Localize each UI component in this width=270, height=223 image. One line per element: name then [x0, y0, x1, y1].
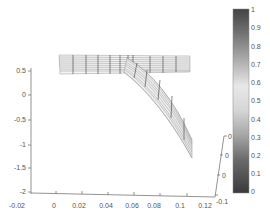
x-tick-label: 0.06 — [120, 202, 144, 209]
y-tick-label: -0.5 — [2, 116, 26, 123]
x-tick-label: 0.1 — [168, 202, 192, 209]
y-tick-label: -1.5 — [2, 164, 26, 171]
y-axis — [28, 68, 31, 194]
y-tick-label: 0.5 — [2, 67, 26, 74]
colorbar-tick-label: 0 — [251, 188, 255, 195]
colorbar-tick-label: 0.4 — [251, 116, 261, 123]
y-tick-label: 0 — [2, 91, 26, 98]
z-tick-label: 0 — [225, 152, 229, 159]
y-tick-label: -1 — [2, 141, 26, 148]
x-tick-label: 0.08 — [142, 202, 166, 209]
y-tick-label: -2 — [2, 188, 26, 195]
x-tick-label: 0.02 — [67, 202, 91, 209]
x-tick-label: 0 — [42, 202, 66, 209]
mesh-surface-bent — [124, 58, 192, 158]
colorbar-tick-label: 0.1 — [251, 170, 261, 177]
colorbar-tick-label: 0.9 — [251, 24, 261, 31]
colorbar-tick-label: 0.2 — [251, 152, 261, 159]
figure: 0.5 0 -0.5 -1 -1.5 -2 -0.02 0 0.02 0.04 … — [0, 0, 270, 223]
z-tick-label: 0 — [222, 172, 226, 179]
colorbar-tick-label: 0.5 — [251, 97, 261, 104]
z-axis — [215, 136, 227, 197]
x-tick-label: 0.04 — [94, 202, 118, 209]
colorbar-tick-label: 1 — [251, 6, 255, 13]
plot-area — [0, 0, 270, 223]
colorbar-tick-label: 0.7 — [251, 61, 261, 68]
z-tick-label: -0.1 — [216, 198, 228, 205]
x-tick-label: 0.12 — [193, 202, 217, 209]
x-axis — [31, 191, 215, 197]
colorbar-tick-label: 0.3 — [251, 134, 261, 141]
z-tick-label: 0 — [228, 133, 232, 140]
colorbar-tick-label: 0.6 — [251, 79, 261, 86]
colorbar — [233, 9, 249, 193]
colorbar-tick-label: 0.8 — [251, 43, 261, 50]
x-tick-label: -0.02 — [5, 202, 29, 209]
